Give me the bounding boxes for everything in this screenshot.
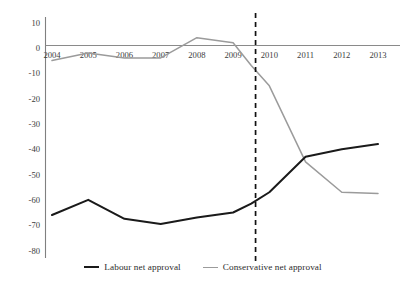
series-group	[52, 38, 378, 224]
legend-swatch-labour-icon	[84, 266, 99, 268]
legend-label-labour: Labour net approval	[104, 262, 180, 272]
x-tick-2012: 2012	[333, 50, 350, 60]
y-tick--70: -70	[29, 220, 40, 230]
x-axis-tick-labels: 2004200520062007200820092010201120122013	[43, 50, 386, 60]
y-tick--40: -40	[29, 144, 40, 154]
series-line-conservative	[52, 38, 378, 194]
y-tick--80: -80	[29, 246, 40, 256]
y-tick-0: 0	[36, 43, 40, 53]
series-line-labour	[52, 144, 378, 224]
legend-swatch-conservative-icon	[203, 267, 218, 268]
legend-label-conservative: Conservative net approval	[223, 262, 322, 272]
line-chart-canvas: 100-10-20-30-40-50-60-70-80 200420052006…	[0, 0, 406, 295]
chart-container: 100-10-20-30-40-50-60-70-80 200420052006…	[0, 0, 406, 295]
x-tick-2013: 2013	[369, 50, 386, 60]
x-tick-2011: 2011	[297, 50, 314, 60]
x-tick-2010: 2010	[261, 50, 278, 60]
y-tick--30: -30	[29, 119, 40, 129]
y-tick--10: -10	[29, 68, 40, 78]
y-axis-tick-labels: 100-10-20-30-40-50-60-70-80	[29, 18, 40, 256]
y-tick--20: -20	[29, 94, 40, 104]
x-tick-2005: 2005	[80, 50, 97, 60]
legend-item-conservative: Conservative net approval	[203, 262, 322, 272]
y-tick--50: -50	[29, 170, 40, 180]
y-tick--60: -60	[29, 195, 40, 205]
y-tick-10: 10	[31, 18, 40, 28]
chart-legend: Labour net approval Conservative net app…	[0, 262, 406, 272]
x-tick-2008: 2008	[188, 50, 205, 60]
legend-item-labour: Labour net approval	[84, 262, 180, 272]
